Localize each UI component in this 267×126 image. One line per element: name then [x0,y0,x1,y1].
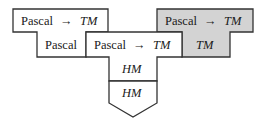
right-compiler-arrow: → [204,14,217,28]
right-compiler-source-label: Pascal [165,14,197,28]
middle-compiler-tdiagram: Pascal → TM HM [86,32,182,81]
left-compiler-arrow: → [60,14,73,28]
middle-compiler-source-label: Pascal [94,38,126,52]
middle-compiler-arrow: → [133,38,146,52]
machine-diagram: HM [109,81,157,117]
right-compiler-target-label: TM [224,14,242,28]
left-compiler-target-label: TM [80,14,98,28]
bootstrapping-diagram: Pascal → TM Pascal Pascal → TM TM Pascal… [0,0,267,126]
middle-compiler-target-label: TM [153,38,171,52]
machine-label: HM [121,86,142,100]
middle-compiler-impl-label: HM [121,62,142,76]
left-compiler-source-label: Pascal [21,14,53,28]
left-compiler-impl-label: Pascal [45,38,77,52]
right-compiler-impl-label: TM [196,38,214,52]
